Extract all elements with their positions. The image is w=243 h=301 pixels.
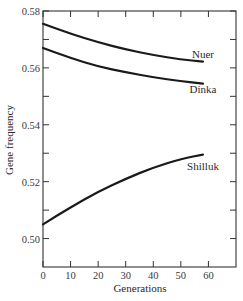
x-tick-label: 40 <box>148 270 159 281</box>
series-label-nuer: Nuer <box>192 48 214 60</box>
x-tick-label: 50 <box>176 270 187 281</box>
series-line-shilluk <box>43 155 203 225</box>
x-tick-label: 30 <box>120 270 131 281</box>
y-tick-label: 0.58 <box>22 6 40 17</box>
series-label-shilluk: Shilluk <box>187 160 219 172</box>
line-chart: 0102030405060 0.500.520.540.560.58 NuerD… <box>0 0 243 301</box>
y-axis-ticks: 0.500.520.540.560.58 <box>22 6 236 245</box>
series-lines <box>43 24 203 225</box>
series-label-dinka: Dinka <box>190 83 217 95</box>
x-tick-label: 20 <box>93 270 104 281</box>
x-tick-label: 0 <box>40 270 45 281</box>
y-tick-label: 0.52 <box>22 177 40 188</box>
y-tick-label: 0.56 <box>22 63 40 74</box>
x-axis-ticks: 0102030405060 <box>40 11 213 281</box>
x-axis-title: Generations <box>113 282 166 294</box>
x-tick-label: 10 <box>65 270 76 281</box>
series-labels: NuerDinkaShilluk <box>187 48 219 172</box>
y-tick-label: 0.54 <box>22 120 41 131</box>
series-line-dinka <box>43 48 203 84</box>
y-tick-label: 0.50 <box>22 234 40 245</box>
y-axis-title: Gene frequency <box>3 105 15 175</box>
x-tick-label: 60 <box>203 270 214 281</box>
